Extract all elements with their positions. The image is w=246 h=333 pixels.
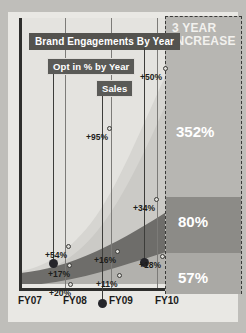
y-axis	[19, 18, 22, 290]
marker-p50	[163, 66, 168, 71]
marker-p95	[107, 126, 112, 131]
chart-card: 3 YEAR INCREASE 352% 80% 57% Brand Engag…	[8, 12, 238, 322]
leader-dot-optin	[49, 259, 58, 268]
panel-value-total: 352%	[176, 123, 214, 140]
xtick-fy08: FY08	[63, 295, 87, 306]
gridline-fy10	[157, 18, 158, 288]
marker-p20	[68, 282, 73, 287]
leader-line-optin	[53, 74, 54, 263]
marker-p34	[154, 197, 159, 202]
label-p17: +17%	[48, 269, 70, 279]
label-p18: +18%	[139, 260, 161, 270]
leader-line-sales	[102, 96, 103, 303]
label-p50: +50%	[140, 72, 162, 82]
x-axis-labels: FY07 FY08 FY09 FY10	[8, 295, 238, 315]
marker-p17	[67, 263, 72, 268]
marker-p54	[66, 244, 71, 249]
marker-p18	[160, 254, 165, 259]
callout-optin[interactable]: Opt in % by Year	[47, 58, 135, 75]
marker-p16	[115, 249, 120, 254]
panel-value-mid: 80%	[178, 213, 208, 230]
marker-p11	[117, 273, 122, 278]
callout-sales[interactable]: Sales	[96, 80, 133, 97]
three-year-increase-panel: 3 YEAR INCREASE 352% 80% 57%	[165, 16, 242, 294]
label-p34: +34%	[133, 203, 155, 213]
chart-screenshot: 3 YEAR INCREASE 352% 80% 57% Brand Engag…	[0, 0, 246, 333]
label-p11: +11%	[96, 279, 118, 289]
xtick-fy09: FY09	[109, 295, 133, 306]
label-p54: +54%	[45, 250, 67, 260]
label-p16: +16%	[94, 255, 116, 265]
chart-title: Brand Engagements By Year	[29, 33, 180, 50]
panel-value-low: 57%	[178, 269, 208, 286]
xtick-fy07: FY07	[18, 295, 42, 306]
panel-title: 3 YEAR INCREASE	[172, 22, 242, 48]
xtick-fy10: FY10	[155, 295, 179, 306]
label-p95: +95%	[86, 132, 108, 142]
x-axis	[19, 288, 165, 291]
